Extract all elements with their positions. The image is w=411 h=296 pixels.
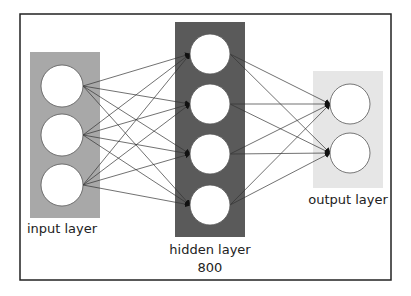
hidden-layer-label: hidden layer [169, 242, 251, 257]
hidden-node-3 [190, 134, 230, 174]
input-node-2 [41, 114, 83, 156]
output-node-2 [330, 133, 370, 173]
hidden-node-2 [190, 84, 230, 124]
hidden-node-4 [190, 185, 230, 225]
output-layer-label: output layer [308, 192, 388, 207]
input-node-1 [41, 65, 83, 107]
neural-network-diagram: input layer hidden layer 800 output laye… [0, 0, 411, 296]
input-layer-label: input layer [27, 221, 98, 236]
input-node-3 [41, 164, 83, 206]
hidden-node-1 [190, 34, 230, 74]
output-node-1 [330, 84, 370, 124]
hidden-layer-size-label: 800 [198, 260, 223, 275]
